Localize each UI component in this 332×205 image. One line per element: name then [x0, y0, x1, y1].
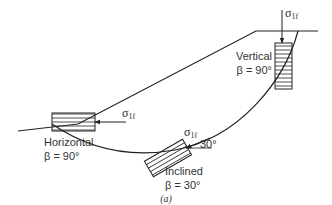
inclined-beta-label: β = 30° [165, 179, 201, 191]
inclined-angle-label: 30° [200, 138, 217, 150]
vertical-label: Vertical [236, 50, 272, 62]
svg-text:σ1f: σ1f [285, 6, 298, 21]
stress-subscript: 1f [128, 112, 135, 121]
stress-subscript: 1f [190, 131, 197, 140]
stress-subscript: 1f [291, 12, 298, 21]
horizontal-element: σ1f Horizontal β = 90° [44, 106, 135, 162]
vertical-beta-label: β = 90° [237, 64, 273, 76]
inclined-element: σ1f 30° Inclined β = 30° [138, 125, 217, 191]
slope-stability-diagram: σ1f Vertical β = 90° σ1f Horizontal β = … [0, 0, 332, 205]
figure-caption: (a) [160, 193, 172, 205]
svg-text:σ1f: σ1f [122, 106, 135, 121]
svg-text:σ1f: σ1f [184, 125, 197, 140]
vertical-element: σ1f Vertical β = 90° [236, 6, 299, 89]
horizontal-beta-label: β = 90° [44, 150, 80, 162]
inclined-label: Inclined [165, 165, 203, 177]
horizontal-label: Horizontal [44, 136, 94, 148]
